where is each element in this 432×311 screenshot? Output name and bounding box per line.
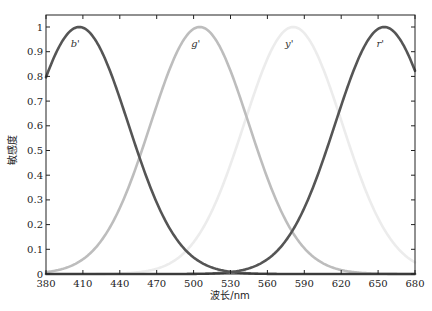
y-tick-label: 0.1 [27, 244, 43, 255]
x-tick-label: 470 [147, 278, 166, 289]
x-tick-label: 590 [295, 278, 314, 289]
curve-labels: b'g'y'r' [71, 38, 384, 49]
x-axis-title: 波长/nm [210, 289, 249, 301]
y-tick-label: 0.6 [27, 120, 43, 131]
curve-b-prime [46, 27, 415, 274]
y-tick-label: 0 [37, 269, 43, 280]
curve-y-prime [46, 27, 415, 274]
curve-r-prime [46, 27, 415, 274]
y-tick-label: 0.5 [27, 145, 43, 156]
x-tick-label: 440 [110, 278, 129, 289]
curve-label: r' [376, 38, 384, 49]
y-tick-label: 0.2 [27, 219, 43, 230]
y-tick-label: 0.7 [27, 96, 43, 107]
y-axis-title: 敏感度 [6, 135, 18, 165]
curves-layer [46, 27, 415, 274]
y-tick-label: 1 [37, 22, 43, 33]
x-tick-label: 410 [73, 278, 92, 289]
y-tick-label: 0.9 [27, 46, 43, 57]
x-tick-label: 380 [36, 278, 55, 289]
curve-label: b' [71, 38, 80, 49]
curve-g-prime [46, 27, 415, 274]
x-tick-label: 530 [221, 278, 240, 289]
y-tick-label: 0.4 [27, 170, 43, 181]
y-tick-label: 0.8 [27, 71, 43, 82]
curve-label: y' [284, 38, 293, 49]
x-tick-label: 680 [405, 278, 424, 289]
curve-label: g' [191, 38, 200, 49]
x-tick-label: 620 [332, 278, 351, 289]
y-tick-label: 0.3 [27, 194, 43, 205]
x-tick-label: 560 [258, 278, 277, 289]
x-tick-label: 650 [369, 278, 388, 289]
x-tick-label: 500 [184, 278, 203, 289]
sensitivity-chart: 380410440470500530560590620650680 00.10.… [0, 0, 432, 311]
